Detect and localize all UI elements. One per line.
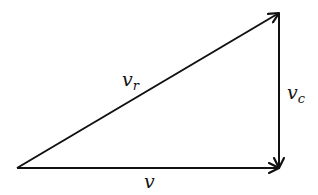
label-v: v: [144, 170, 155, 192]
vector-vr-arrow: [17, 13, 279, 168]
label-vc: vc: [287, 81, 306, 106]
vector-triangle-diagram: v vr vc: [0, 0, 318, 195]
label-vr: vr: [122, 68, 140, 93]
